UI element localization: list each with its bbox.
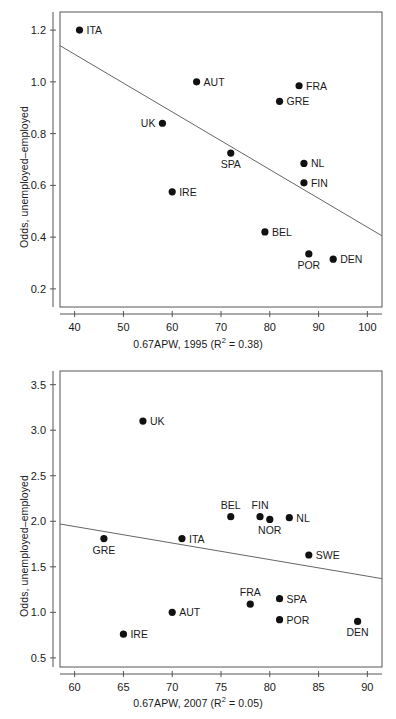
y-tick-label: 1.0 bbox=[31, 606, 46, 618]
data-point-group: GRE bbox=[276, 95, 309, 107]
data-point-label: POR bbox=[297, 259, 320, 271]
data-point-label: GRE bbox=[93, 544, 116, 556]
data-point-group: POR bbox=[276, 614, 310, 626]
data-point-marker bbox=[300, 179, 307, 186]
data-point-group: FIN bbox=[252, 499, 269, 521]
data-point-label: FIN bbox=[252, 499, 269, 511]
x-axis-title-prefix-1995: 0.67APW, 1995 (R bbox=[133, 338, 222, 350]
data-point-marker bbox=[139, 417, 146, 424]
x-tick-label: 60 bbox=[69, 681, 81, 693]
data-point-label: GRE bbox=[287, 95, 310, 107]
y-axis-title-1995: Odds, unemployed–employed bbox=[18, 106, 30, 248]
data-point-label: AUT bbox=[179, 606, 201, 618]
x-tick-label: 60 bbox=[166, 321, 178, 333]
scatter-chart-1995: 4050607080901000.20.40.60.81.01.2ITAAUTF… bbox=[0, 0, 396, 360]
y-tick-label: 2.0 bbox=[31, 515, 46, 527]
x-axis-title-1995: 0.67APW, 1995 (R2 = 0.38) bbox=[0, 336, 396, 350]
data-point-group: NL bbox=[300, 157, 324, 169]
data-point-group: AUT bbox=[169, 606, 201, 618]
y-tick-label: 0.4 bbox=[31, 231, 46, 243]
data-point-label: BEL bbox=[272, 226, 292, 238]
x-tick-label: 50 bbox=[117, 321, 129, 333]
plot-area-1995: 4050607080901000.20.40.60.81.01.2ITAAUTF… bbox=[0, 0, 396, 360]
data-point-label: SPA bbox=[287, 593, 307, 605]
data-point-label: UK bbox=[141, 117, 156, 129]
x-axis-title-suffix-2007: = 0.05) bbox=[226, 697, 263, 709]
y-tick-label: 1.2 bbox=[31, 24, 46, 36]
y-tick-label: 0.6 bbox=[31, 179, 46, 191]
y-tick-label: 3.0 bbox=[31, 424, 46, 436]
data-point-marker bbox=[276, 616, 283, 623]
data-point-marker bbox=[227, 513, 234, 520]
y-axis-title-2007: Odds, unemployed–employed bbox=[18, 475, 30, 617]
data-point-group: SPA bbox=[276, 593, 307, 605]
data-point-marker bbox=[100, 535, 107, 542]
data-point-marker bbox=[276, 98, 283, 105]
data-point-marker bbox=[300, 160, 307, 167]
y-tick-label: 1.5 bbox=[31, 561, 46, 573]
data-point-marker bbox=[330, 256, 337, 263]
data-point-marker bbox=[227, 149, 234, 156]
data-point-marker bbox=[159, 120, 166, 127]
x-tick-label: 90 bbox=[361, 681, 373, 693]
x-tick-label: 85 bbox=[312, 681, 324, 693]
data-point-group: ITA bbox=[178, 533, 204, 545]
data-point-label: ITA bbox=[189, 533, 205, 545]
data-point-group: FRA bbox=[295, 80, 327, 92]
plot-area-2007: 606570758085900.51.01.52.02.53.03.5UKBEL… bbox=[0, 359, 396, 719]
data-point-label: UK bbox=[150, 415, 165, 427]
x-tick-label: 70 bbox=[166, 681, 178, 693]
data-point-marker bbox=[261, 228, 268, 235]
x-axis-title-2007: 0.67APW, 2007 (R2 = 0.05) bbox=[0, 695, 396, 709]
data-point-label: NOR bbox=[258, 524, 282, 536]
data-point-group: POR bbox=[297, 250, 320, 271]
data-point-marker bbox=[256, 513, 263, 520]
data-point-marker bbox=[295, 82, 302, 89]
data-point-label: FRA bbox=[306, 80, 327, 92]
data-point-group: NL bbox=[286, 512, 310, 524]
data-point-label: AUT bbox=[204, 76, 226, 88]
data-point-label: NL bbox=[311, 157, 325, 169]
x-axis-title-suffix-1995: = 0.38) bbox=[226, 338, 263, 350]
data-point-label: IRE bbox=[130, 628, 148, 640]
x-tick-label: 90 bbox=[312, 321, 324, 333]
x-tick-label: 75 bbox=[215, 681, 227, 693]
data-point-group: DEN bbox=[347, 618, 369, 639]
data-point-group: FIN bbox=[300, 177, 328, 189]
y-tick-label: 0.2 bbox=[31, 283, 46, 295]
x-axis-title-prefix-2007: 0.67APW, 2007 (R bbox=[133, 697, 222, 709]
data-point-marker bbox=[354, 618, 361, 625]
data-point-group: SWE bbox=[305, 549, 340, 561]
data-point-group: FRA bbox=[240, 586, 261, 608]
data-point-label: POR bbox=[287, 614, 310, 626]
y-tick-label: 0.5 bbox=[31, 652, 46, 664]
plot-frame bbox=[60, 371, 382, 667]
x-tick-label: 80 bbox=[264, 681, 276, 693]
data-point-group: UK bbox=[139, 415, 164, 427]
data-point-label: DEN bbox=[340, 253, 362, 265]
data-point-group: ITA bbox=[76, 24, 102, 36]
data-point-group: BEL bbox=[261, 226, 292, 238]
data-point-group: DEN bbox=[330, 253, 363, 265]
data-point-marker bbox=[266, 516, 273, 523]
x-tick-label: 100 bbox=[358, 321, 376, 333]
x-tick-label: 40 bbox=[69, 321, 81, 333]
data-point-marker bbox=[76, 27, 83, 34]
data-point-label: IRE bbox=[179, 186, 197, 198]
y-tick-label: 2.5 bbox=[31, 470, 46, 482]
data-point-group: IRE bbox=[120, 628, 148, 640]
data-point-label: ITA bbox=[87, 24, 103, 36]
data-point-marker bbox=[276, 595, 283, 602]
data-point-group: IRE bbox=[169, 186, 197, 198]
data-point-label: SWE bbox=[316, 549, 340, 561]
regression-line bbox=[60, 46, 382, 236]
data-point-label: DEN bbox=[347, 626, 369, 638]
data-point-label: FRA bbox=[240, 586, 261, 598]
data-point-marker bbox=[178, 535, 185, 542]
data-point-marker bbox=[120, 631, 127, 638]
data-point-marker bbox=[193, 78, 200, 85]
data-point-marker bbox=[169, 609, 176, 616]
data-point-label: BEL bbox=[221, 499, 241, 511]
x-tick-label: 80 bbox=[264, 321, 276, 333]
data-point-group: GRE bbox=[93, 535, 116, 556]
